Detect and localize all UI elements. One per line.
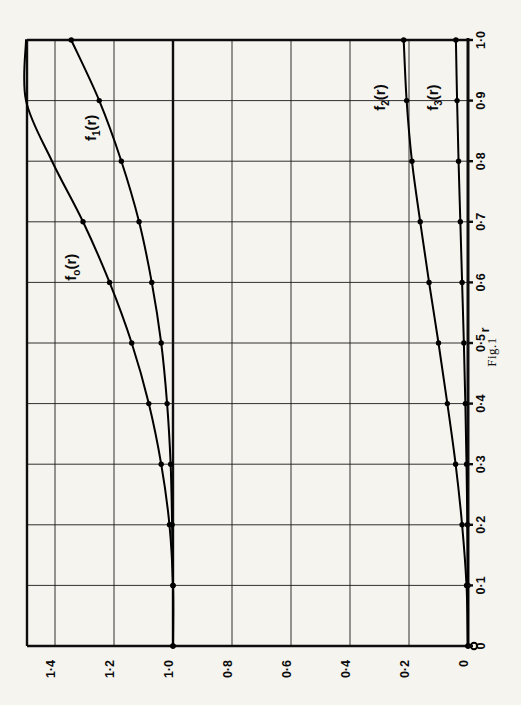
data-point-f_2(r)-0.7 <box>418 219 423 224</box>
data-point-f_3(r)-0.6 <box>459 280 464 285</box>
value-tick-0·2: 0·2 <box>398 660 412 678</box>
svg-text:f3(r): f3(r) <box>425 84 445 110</box>
chart-canvas: 00·20·40·60·81·01·21·4 00·10·20·30·40·50… <box>0 0 521 705</box>
data-point-f_2(r)-0.3 <box>453 462 458 467</box>
data-point-f_1(r)-0.1 <box>170 583 175 588</box>
r-axis-title-text: r <box>478 327 492 332</box>
value-axis-tick-labels: 00·20·40·60·81·01·21·4 <box>44 660 471 678</box>
r-tick-0·1: 0·1 <box>474 576 488 594</box>
data-point-f_3(r)-0.4 <box>463 401 468 406</box>
data-point-f_1(r)-0.9 <box>97 98 102 103</box>
data-point-f_0(r)-0.4 <box>146 401 151 406</box>
data-point-f_3(r)-0.7 <box>458 219 463 224</box>
data-point-f_1(r)-0.2 <box>169 522 174 527</box>
r-tick-0·4: 0·4 <box>474 395 488 413</box>
svg-text:fo(r): fo(r) <box>62 254 82 281</box>
curve-label-f_2(r): f2(r) <box>371 84 391 110</box>
value-tick-1·0: 1·0 <box>162 660 176 678</box>
curve-labels: fo(r)f1(r)f2(r)f3(r) <box>62 84 445 280</box>
curve-label-arg: (r) <box>371 84 388 100</box>
svg-text:f1(r): f1(r) <box>82 115 102 141</box>
data-point-f_0(r)-0.5 <box>129 340 134 345</box>
figure-caption: Fig.1 <box>484 337 499 367</box>
value-tick-0·8: 0·8 <box>221 660 235 678</box>
value-tick-1·4: 1·4 <box>44 660 58 678</box>
curve-label-arg: (r) <box>62 254 79 270</box>
r-tick-0: 0 <box>474 642 488 649</box>
data-point-f_2(r)-0.4 <box>445 401 450 406</box>
data-point-f_1(r)-0.7 <box>136 219 141 224</box>
value-tick-0·4: 0·4 <box>339 660 353 678</box>
data-point-f_3(r)-0.9 <box>454 98 459 103</box>
data-point-f_1(r)-0.5 <box>159 340 164 345</box>
r-tick-0·2: 0·2 <box>474 516 488 534</box>
value-tick-0·6: 0·6 <box>280 660 294 678</box>
data-point-f_2(r)-0.2 <box>459 522 464 527</box>
r-tick-0·6: 0·6 <box>474 273 488 291</box>
data-point-f_1(r)-0.4 <box>164 401 169 406</box>
svg-text:f2(r): f2(r) <box>371 84 391 110</box>
data-point-f_2(r)-0.6 <box>426 280 431 285</box>
r-tick-0·3: 0·3 <box>474 455 488 473</box>
data-point-f_0(r)-0.6 <box>107 280 112 285</box>
data-point-f_2(r)-0.5 <box>436 340 441 345</box>
data-point-f_1(r)-0 <box>170 643 175 648</box>
r-tick-0·9: 0·9 <box>474 92 488 110</box>
r-tick-0·7: 0·7 <box>474 213 488 231</box>
curve-label-f_1(r): f1(r) <box>82 115 102 141</box>
curve-label-arg: (r) <box>425 84 442 100</box>
data-point-f_1(r)-0.3 <box>168 462 173 467</box>
figure-page: 00·20·40·60·81·01·21·4 00·10·20·30·40·50… <box>0 0 521 705</box>
data-point-f_2(r)-0.8 <box>409 159 414 164</box>
data-point-f_3(r)-0.5 <box>461 340 466 345</box>
data-point-f_1(r)-0.8 <box>119 159 124 164</box>
data-point-f_2(r)-1 <box>401 37 406 42</box>
value-tick-0: 0 <box>457 660 471 667</box>
data-point-f_0(r)-0.7 <box>80 219 85 224</box>
curve-label-f_3(r): f3(r) <box>425 84 445 110</box>
r-axis-title: r <box>478 327 492 332</box>
data-point-f_1(r)-0.6 <box>149 280 154 285</box>
data-point-f_1(r)-1 <box>69 37 74 42</box>
r-axis-gridlines <box>27 101 468 586</box>
curve-label-f_0(r): fo(r) <box>62 254 82 281</box>
data-point-f_3(r)-1 <box>453 37 458 42</box>
data-point-f_2(r)-0.9 <box>404 98 409 103</box>
data-point-f_0(r)-0.3 <box>159 462 164 467</box>
data-point-f_3(r)-0.8 <box>456 159 461 164</box>
r-tick-1·0: 1·0 <box>474 31 488 49</box>
r-tick-0·8: 0·8 <box>474 152 488 170</box>
curve-label-arg: (r) <box>82 115 99 131</box>
value-tick-1·2: 1·2 <box>103 660 117 678</box>
